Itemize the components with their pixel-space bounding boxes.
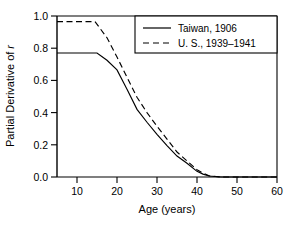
legend-label-taiwan: Taiwan, 1906	[178, 23, 237, 34]
y-tick-label: 0.6	[33, 74, 48, 86]
x-tick-label: 10	[71, 185, 83, 197]
y-tick-labels: 1.0 0.8 0.6 0.4 0.2 0.0	[33, 10, 48, 183]
y-axis-ticks	[51, 16, 57, 177]
x-axis-title: Age (years)	[139, 203, 196, 215]
series-line-taiwan	[57, 53, 277, 177]
y-tick-label: 0.4	[33, 107, 48, 119]
x-axis-ticks	[77, 177, 277, 183]
x-tick-label: 60	[271, 185, 283, 197]
y-tick-label: 0.2	[33, 139, 48, 151]
legend: Taiwan, 1906 U. S., 1939–1941	[135, 16, 277, 53]
x-tick-label: 20	[111, 185, 123, 197]
svg-text:Partial Derivative of r: Partial Derivative of r	[4, 44, 16, 147]
y-axis-title-variable: r	[4, 44, 16, 49]
x-tick-label: 50	[231, 185, 243, 197]
x-tick-labels: 10 20 30 40 50 60	[71, 185, 283, 197]
x-tick-label: 40	[191, 185, 203, 197]
y-tick-label: 1.0	[33, 10, 48, 22]
x-tick-label: 30	[151, 185, 163, 197]
y-axis-title: Partial Derivative of r	[4, 44, 16, 147]
chart-figure: 1.0 0.8 0.6 0.4 0.2 0.0 10 20 30 40 50 6…	[0, 0, 293, 226]
y-tick-label: 0.8	[33, 42, 48, 54]
y-tick-label: 0.0	[33, 171, 48, 183]
legend-label-us: U. S., 1939–1941	[178, 38, 256, 49]
y-axis-title-text: Partial Derivative of	[4, 49, 16, 147]
line-chart: 1.0 0.8 0.6 0.4 0.2 0.0 10 20 30 40 50 6…	[0, 0, 293, 226]
